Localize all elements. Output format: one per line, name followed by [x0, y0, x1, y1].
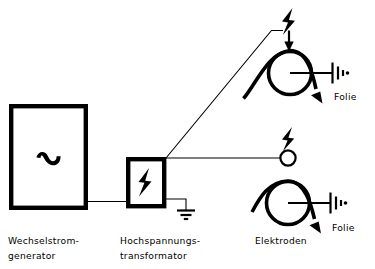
label-film-top: Folie: [334, 91, 357, 102]
label-electrodes: Elektroden: [255, 235, 307, 246]
wire-transformer-to-ground: [165, 199, 187, 210]
generator-group: [11, 106, 86, 208]
label-transformer-line1: Hochspannungs-: [120, 235, 200, 246]
bottom-station-group: [252, 127, 347, 234]
label-transformer-line2: transformator: [120, 250, 187, 261]
label-generator-line2: generator: [8, 250, 56, 261]
film-arrowhead-bottom: [310, 222, 322, 234]
label-film-bottom: Folie: [332, 222, 355, 233]
ground-roller-bottom-group: [331, 193, 348, 214]
ground-dot-bottom: [344, 201, 348, 205]
film-arrowhead-top: [311, 92, 323, 104]
label-generator-line1: Wechselstrom-: [8, 235, 79, 246]
wire-to-top-electrode: [166, 31, 283, 159]
transformer-group: [128, 159, 164, 206]
ground-roller-top-group: [333, 63, 350, 84]
ground-transformer-group: [165, 199, 196, 219]
diagram-canvas: Wechselstrom- generator Hochspannungs- t…: [0, 0, 375, 269]
generator-box: [11, 106, 86, 208]
ground-dot-top: [346, 71, 350, 75]
diagram-svg: Wechselstrom- generator Hochspannungs- t…: [0, 0, 375, 269]
lightning-bolt-icon-bottom: [282, 127, 294, 152]
top-station-group: [244, 8, 350, 104]
electrode-circle-bottom: [280, 150, 295, 165]
